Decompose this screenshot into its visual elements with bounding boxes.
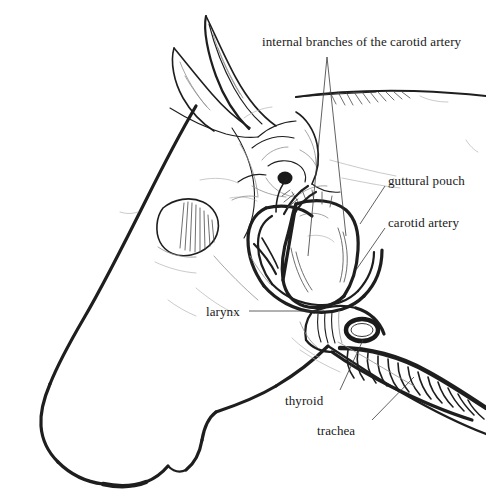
label-larynx: larynx xyxy=(206,305,240,318)
label-trachea: trachea xyxy=(317,424,355,437)
label-guttural-pouch: guttural pouch xyxy=(388,174,465,187)
thyroid-gland xyxy=(346,319,378,341)
figure-canvas: .ln { fill:none; stroke:#1e1e1e; stroke-… xyxy=(0,0,486,500)
label-internal-branches-of-the-carotid-artery: internal branches of the carotid artery xyxy=(262,35,461,48)
label-carotid-artery: carotid artery xyxy=(388,216,459,229)
label-thyroid: thyroid xyxy=(285,394,323,407)
drawing-background xyxy=(0,0,486,500)
horse-head-anatomy-drawing: .ln { fill:none; stroke:#1e1e1e; stroke-… xyxy=(0,0,486,500)
